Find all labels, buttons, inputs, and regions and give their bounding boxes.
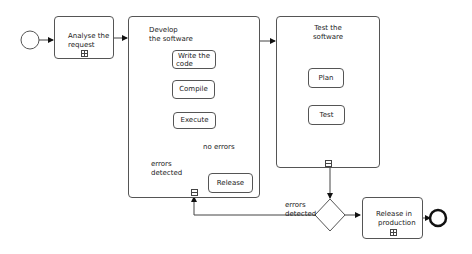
write-code-task[interactable]: Write the code xyxy=(172,50,216,69)
end-event[interactable] xyxy=(430,210,446,226)
write-label-2: code xyxy=(176,60,193,69)
release-prod-label-2: production xyxy=(378,219,416,228)
expand-icon[interactable] xyxy=(81,50,88,57)
release-label: Release xyxy=(209,179,252,188)
develop-software-subprocess[interactable]: Develop the software xyxy=(128,16,260,198)
compile-label: Compile xyxy=(173,85,214,94)
start-event[interactable] xyxy=(21,31,39,49)
no-errors-label: no errors xyxy=(203,143,235,152)
analyse-request-subprocess[interactable]: Analyse the request xyxy=(54,16,114,59)
outer-errors-label-2: detected xyxy=(285,210,316,219)
collapse-icon[interactable] xyxy=(325,160,332,167)
test-sw-label-1: Test the xyxy=(277,24,379,33)
expand-icon[interactable] xyxy=(390,229,397,236)
develop-label-2: the software xyxy=(149,35,193,44)
analyse-label-1: Analyse the xyxy=(68,32,109,41)
execute-task[interactable]: Execute xyxy=(173,112,216,129)
compile-task[interactable]: Compile xyxy=(172,80,215,99)
plan-label: Plan xyxy=(309,74,343,83)
execute-label: Execute xyxy=(174,116,215,125)
test-software-subprocess[interactable]: Test the software xyxy=(276,16,380,168)
develop-label-1: Develop xyxy=(149,26,178,35)
release-task[interactable]: Release xyxy=(208,173,253,193)
inner-errors-label-2: detected xyxy=(151,169,182,178)
test-task[interactable]: Test xyxy=(308,105,345,125)
collapse-icon[interactable] xyxy=(191,189,198,196)
test-sw-label-2: software xyxy=(277,33,379,42)
release-prod-label-1: Release in xyxy=(376,210,412,219)
outer-gateway[interactable] xyxy=(315,199,345,231)
plan-task[interactable]: Plan xyxy=(308,68,344,88)
inner-errors-label-1: errors xyxy=(151,160,172,169)
release-production-subprocess[interactable]: Release in production xyxy=(362,197,423,239)
outer-errors-label-1: errors xyxy=(285,201,306,210)
test-label: Test xyxy=(309,111,344,120)
analyse-label-2: request xyxy=(68,41,95,50)
